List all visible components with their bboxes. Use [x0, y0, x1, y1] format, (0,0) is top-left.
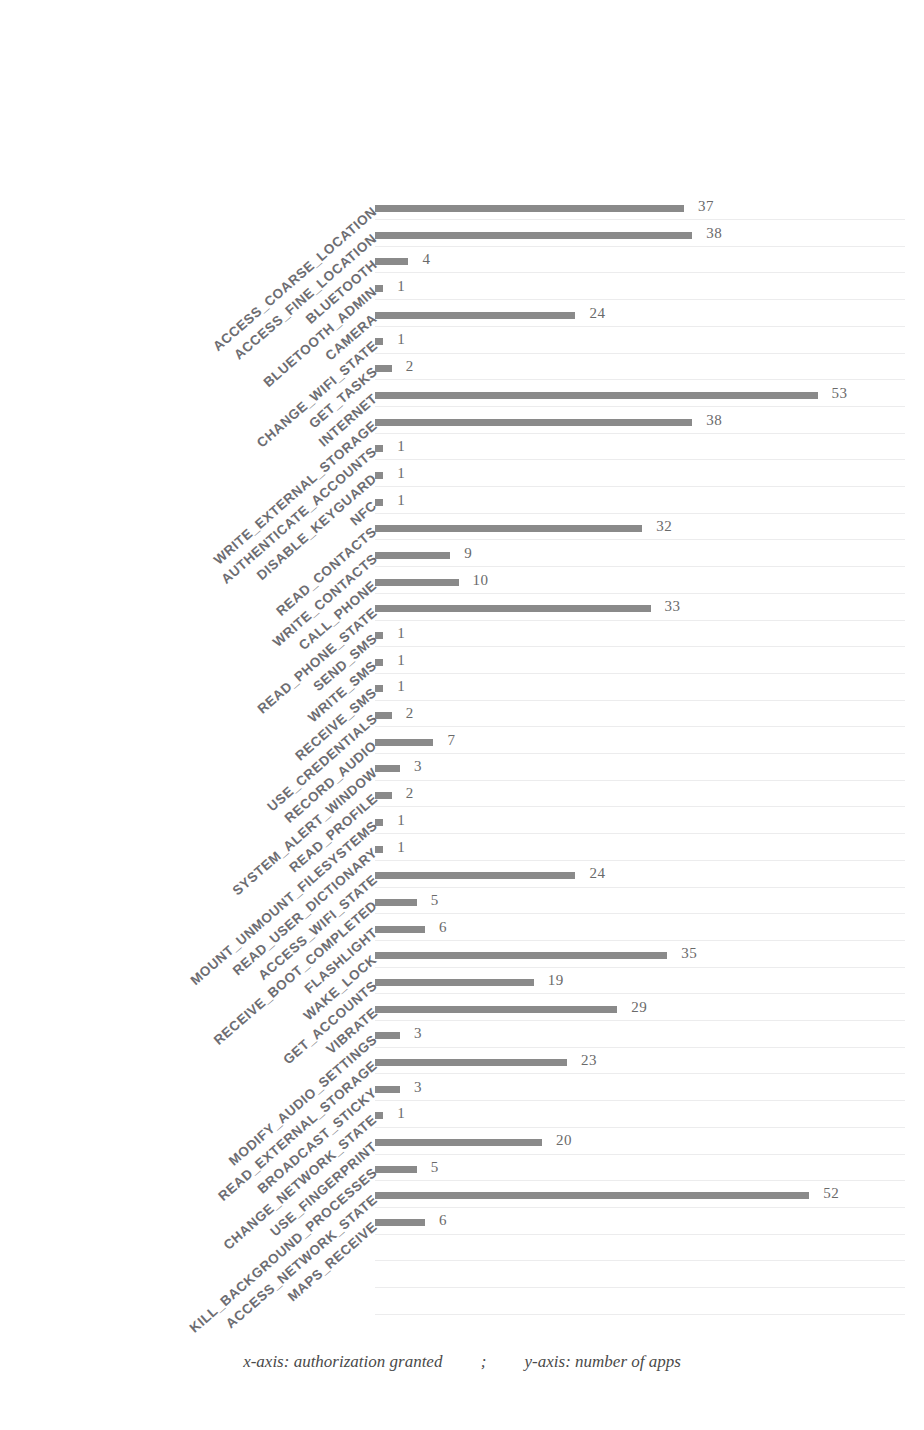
- bar-row: 38: [375, 225, 905, 252]
- bar-value-label: 33: [665, 598, 681, 615]
- bar-value-label: 6: [439, 919, 447, 936]
- bar-value-label: 9: [464, 545, 472, 562]
- bar-value-label: 7: [447, 732, 455, 749]
- bar: [375, 872, 575, 879]
- bar: [375, 419, 692, 426]
- bar: [375, 1166, 417, 1173]
- bar: [375, 792, 392, 799]
- bar: [375, 392, 818, 399]
- plot-area: 3738412412533811132910331112732112456351…: [375, 198, 905, 1308]
- bar-row: 19: [375, 972, 905, 999]
- bar-row: 2: [375, 705, 905, 732]
- bar: [375, 899, 417, 906]
- bar-row: 23: [375, 1052, 905, 1079]
- bar-row: 3: [375, 758, 905, 785]
- bar-value-label: 10: [473, 572, 489, 589]
- bar: [375, 312, 575, 319]
- bar-value-label: 20: [556, 1132, 572, 1149]
- bar-row: 6: [375, 919, 905, 946]
- bar-value-label: 1: [397, 465, 405, 482]
- bar-value-label: 19: [548, 972, 564, 989]
- caption-x-axis: x-axis: authorization granted: [243, 1352, 442, 1372]
- bar: [375, 285, 383, 292]
- caption-y-axis: y-axis: number of apps: [525, 1352, 681, 1372]
- bar-row: 1: [375, 812, 905, 839]
- bar-value-label: 3: [414, 1025, 422, 1042]
- bar-value-label: 1: [397, 492, 405, 509]
- bar-row: 20: [375, 1132, 905, 1159]
- bar-row: 1: [375, 652, 905, 679]
- bar: [375, 1086, 400, 1093]
- bar-row: 29: [375, 999, 905, 1026]
- bar-value-label: 1: [397, 1105, 405, 1122]
- bar-value-label: 24: [589, 865, 605, 882]
- bar-value-label: 24: [589, 305, 605, 322]
- bar: [375, 712, 392, 719]
- bar-row: 1: [375, 331, 905, 358]
- bar-row: 3: [375, 1079, 905, 1106]
- bar: [375, 205, 684, 212]
- caption-separator: ;: [447, 1352, 521, 1372]
- bar-value-label: 2: [406, 358, 414, 375]
- scan-line: [375, 1260, 905, 1261]
- bar-value-label: 37: [698, 198, 714, 215]
- bar-value-label: 23: [581, 1052, 597, 1069]
- bar: [375, 819, 383, 826]
- bar-value-label: 1: [397, 812, 405, 829]
- bar-row: 1: [375, 1105, 905, 1132]
- bar: [375, 445, 383, 452]
- bar-value-label: 1: [397, 331, 405, 348]
- bar-row: 9: [375, 545, 905, 572]
- scan-line: [375, 1287, 905, 1288]
- bar-value-label: 6: [439, 1212, 447, 1229]
- bar: [375, 739, 433, 746]
- bar: [375, 1059, 567, 1066]
- bar-row: 32: [375, 518, 905, 545]
- bar: [375, 499, 383, 506]
- bar-row: 1: [375, 438, 905, 465]
- figure-caption: x-axis: authorization granted ; y-axis: …: [0, 1352, 924, 1372]
- bar-row: 3: [375, 1025, 905, 1052]
- bar-value-label: 1: [397, 625, 405, 642]
- bar: [375, 1192, 809, 1199]
- bar: [375, 1112, 383, 1119]
- bar-value-label: 35: [681, 945, 697, 962]
- bar-value-label: 3: [414, 1079, 422, 1096]
- bar-value-label: 38: [706, 412, 722, 429]
- bar: [375, 365, 392, 372]
- bar-row: 1: [375, 278, 905, 305]
- bar-value-label: 2: [406, 785, 414, 802]
- bar-row: 53: [375, 385, 905, 412]
- bar-row: 10: [375, 572, 905, 599]
- bar: [375, 232, 692, 239]
- bar: [375, 338, 383, 345]
- bar-value-label: 29: [631, 999, 647, 1016]
- bar-row: 38: [375, 412, 905, 439]
- bar: [375, 1139, 542, 1146]
- bar-row: 2: [375, 358, 905, 385]
- bar-row: 1: [375, 625, 905, 652]
- bar: [375, 552, 450, 559]
- bar: [375, 952, 667, 959]
- bar-value-label: 1: [397, 278, 405, 295]
- bar-row: 1: [375, 839, 905, 866]
- bar-row: 2: [375, 785, 905, 812]
- bar-value-label: 2: [406, 705, 414, 722]
- bar: [375, 605, 651, 612]
- bar-row: 37: [375, 198, 905, 225]
- bar: [375, 846, 383, 853]
- bar-row: 5: [375, 892, 905, 919]
- bar: [375, 632, 383, 639]
- bar-value-label: 1: [397, 678, 405, 695]
- bar-value-label: 1: [397, 652, 405, 669]
- bar: [375, 1006, 617, 1013]
- bar-value-label: 1: [397, 839, 405, 856]
- bar-row: 1: [375, 465, 905, 492]
- category-label-axis: ACCESS_COARSE_LOCATIONACCESS_FINE_LOCATI…: [0, 0, 375, 1430]
- bar-row: 6: [375, 1212, 905, 1239]
- bar-row: 24: [375, 865, 905, 892]
- bar-value-label: 4: [422, 251, 430, 268]
- bar-value-label: 1: [397, 438, 405, 455]
- bar: [375, 1219, 425, 1226]
- bar-value-label: 32: [656, 518, 672, 535]
